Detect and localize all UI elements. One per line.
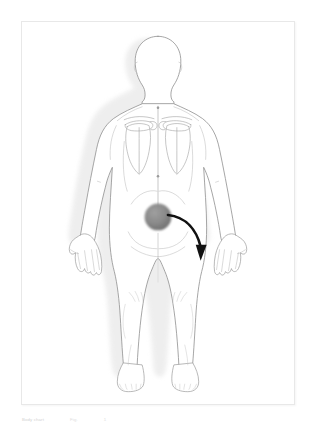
pain-location-marker[interactable] [145,204,172,231]
page-background: Body chart Fig. 1 [0,0,314,426]
figure-caption-meta-label: Fig. [70,417,78,423]
landmark-c7-dot [157,106,160,109]
hand-left-outline [69,234,102,275]
hand-right-outline [214,234,247,275]
figure-caption-meta-number: 1 [104,417,107,423]
human-body-posterior-diagram[interactable] [22,22,294,404]
figure-caption: Body chart [22,417,44,423]
body-chart-frame[interactable] [21,21,295,405]
figure-caption-row: Body chart Fig. 1 [22,414,292,426]
landmark-thoracolumbar-dot [157,175,160,178]
